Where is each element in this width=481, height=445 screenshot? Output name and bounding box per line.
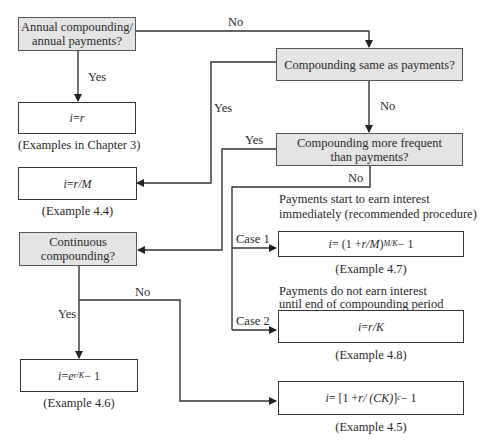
note-case1-line2: immediately (recommended procedure) bbox=[279, 207, 477, 221]
caption-case1: (Example 4.7) bbox=[278, 262, 464, 276]
caption-same: (Example 4.4) bbox=[18, 204, 137, 218]
decision-annual-line2: annual payments? bbox=[21, 34, 133, 48]
formula-eq: = bbox=[61, 369, 68, 383]
formula-annual: i = r bbox=[18, 102, 136, 134]
formula-base: e bbox=[68, 369, 73, 383]
formula-same: i = r/M bbox=[18, 167, 137, 200]
edge-label-same-no: No bbox=[380, 99, 395, 113]
formula-eq: = bbox=[67, 177, 74, 191]
arrow-annual-no bbox=[135, 31, 369, 47]
edge-label-case2: Case 2 bbox=[236, 314, 270, 328]
note-case1-line1: Payments start to earn interest bbox=[279, 192, 430, 206]
formula-mid: r/ (CK) bbox=[358, 391, 393, 405]
caption-case2: (Example 4.8) bbox=[278, 348, 464, 362]
caption-non-continuous: (Example 4.5) bbox=[278, 420, 464, 434]
formula-case1: i = (1 + r/M)M/K − 1 bbox=[278, 231, 464, 257]
formula-continuous: i = er/K − 1 bbox=[20, 359, 138, 392]
decision-annual-line1: Annual compounding/ bbox=[21, 20, 133, 34]
decision-annual-compounding: Annual compounding/ annual payments? bbox=[18, 17, 136, 51]
formula-tail: − 1 bbox=[398, 237, 414, 251]
edge-label-annual-no: No bbox=[228, 15, 243, 29]
arrow-same-yes bbox=[137, 62, 276, 183]
formula-case2: i = r/K bbox=[278, 310, 464, 343]
formula-rhs: r/K bbox=[368, 320, 384, 334]
formula-eq: = (1 + bbox=[332, 237, 362, 251]
edge-label-same-yes: Yes bbox=[214, 101, 232, 115]
formula-rhs: r bbox=[80, 111, 85, 125]
note-case2-line1: Payments do not earn interest bbox=[279, 284, 427, 298]
edge-label-case1: Case 1 bbox=[236, 232, 270, 246]
formula-tail: − 1 bbox=[401, 391, 417, 405]
decision-freq-line1: Compounding more frequent bbox=[297, 136, 442, 150]
note-case2-line2: until end of compounding period bbox=[279, 297, 444, 311]
edge-label-cont-yes: Yes bbox=[58, 307, 76, 321]
edge-label-freq-no: No bbox=[348, 171, 363, 185]
formula-mid: r/M bbox=[361, 237, 379, 251]
formula-non-continuous: i = [1 + r/ (CK)]c − 1 bbox=[278, 381, 464, 415]
decision-freq-line2: than payments? bbox=[297, 150, 442, 164]
formula-eq: = [1 + bbox=[329, 391, 359, 405]
edge-label-annual-yes: Yes bbox=[88, 70, 106, 84]
caption-continuous: (Example 4.6) bbox=[20, 396, 138, 410]
caption-annual: (Examples in Chapter 3) bbox=[18, 138, 136, 152]
formula-eq: = bbox=[361, 320, 368, 334]
formula-rhs: r/M bbox=[74, 177, 92, 191]
edge-label-cont-no: No bbox=[135, 285, 150, 299]
decision-compounding-same: Compounding same as payments? bbox=[276, 48, 463, 81]
decision-continuous: Continuous compounding? bbox=[19, 232, 137, 266]
edge-label-freq-yes: Yes bbox=[245, 133, 263, 147]
decision-cont-line1: Continuous bbox=[41, 235, 115, 249]
decision-more-frequent: Compounding more frequent than payments? bbox=[276, 133, 463, 166]
decision-same-label: Compounding same as payments? bbox=[284, 58, 454, 72]
decision-cont-line2: compounding? bbox=[41, 249, 115, 263]
formula-eq: = bbox=[73, 111, 80, 125]
formula-tail: − 1 bbox=[84, 369, 100, 383]
